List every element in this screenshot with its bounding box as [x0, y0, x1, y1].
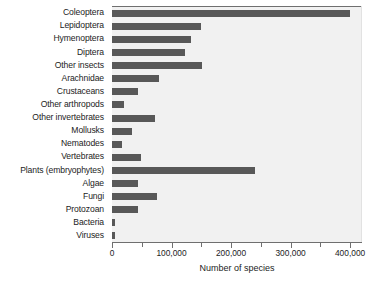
- bar-row: [112, 59, 362, 72]
- bar: [112, 180, 138, 187]
- bar-row: [112, 151, 362, 164]
- bar: [112, 219, 115, 226]
- bar: [112, 101, 124, 108]
- bar-row: [112, 7, 362, 20]
- category-label: Plants (embryophytes): [0, 163, 107, 176]
- category-label: Diptera: [0, 45, 107, 58]
- x-tick-minor: [142, 243, 143, 247]
- bar-row: [112, 216, 362, 229]
- category-axis-labels: ColeopteraLepidopteraHymenopteraDipteraO…: [0, 6, 107, 242]
- bar-row: [112, 98, 362, 111]
- bar: [112, 49, 185, 56]
- category-label: Coleoptera: [0, 6, 107, 19]
- bar-row: [112, 164, 362, 177]
- bar: [112, 206, 138, 213]
- x-tick-minor: [201, 243, 202, 247]
- bar: [112, 88, 138, 95]
- bar-row: [112, 203, 362, 216]
- x-tick-label: 200,000: [216, 249, 246, 257]
- bar: [112, 154, 141, 161]
- category-label: Protozoan: [0, 203, 107, 216]
- bar-row: [112, 125, 362, 138]
- bar: [112, 232, 115, 239]
- bar: [112, 23, 201, 30]
- bar: [112, 75, 159, 82]
- category-label: Lepidoptera: [0, 19, 107, 32]
- category-label: Other invertebrates: [0, 111, 107, 124]
- category-label: Fungi: [0, 190, 107, 203]
- bar: [112, 36, 191, 43]
- bar-row: [112, 46, 362, 59]
- category-label: Viruses: [0, 229, 107, 242]
- x-tick-minor: [261, 243, 262, 247]
- category-label: Other insects: [0, 58, 107, 71]
- species-bar-chart-figure: ColeopteraLepidopteraHymenopteraDipteraO…: [0, 0, 372, 281]
- category-label: Other arthropods: [0, 98, 107, 111]
- bar-row: [112, 138, 362, 151]
- bar: [112, 10, 350, 17]
- bar-series: [112, 7, 362, 242]
- bar: [112, 193, 157, 200]
- category-label: Vertebrates: [0, 150, 107, 163]
- bar: [112, 128, 132, 135]
- bar-row: [112, 190, 362, 203]
- category-label: Nematodes: [0, 137, 107, 150]
- category-label: Mollusks: [0, 124, 107, 137]
- category-label: Hymenoptera: [0, 32, 107, 45]
- bar-row: [112, 112, 362, 125]
- x-axis-tick-labels: 0100,000200,000300,000400,000: [0, 249, 372, 261]
- category-label: Arachnidae: [0, 72, 107, 85]
- x-tick-label: 400,000: [335, 249, 365, 257]
- category-label: Crustaceans: [0, 85, 107, 98]
- bar: [112, 115, 155, 122]
- bar-row: [112, 229, 362, 242]
- category-label: Bacteria: [0, 216, 107, 229]
- bar: [112, 62, 202, 69]
- bar: [112, 141, 122, 148]
- bar: [112, 167, 255, 174]
- category-label: Algae: [0, 176, 107, 189]
- x-tick-minor: [320, 243, 321, 247]
- bar-row: [112, 85, 362, 98]
- x-tick-label: 0: [110, 249, 115, 257]
- bar-row: [112, 33, 362, 46]
- bar-row: [112, 72, 362, 85]
- bar-row: [112, 177, 362, 190]
- x-axis-title: Number of species: [112, 264, 362, 273]
- bar-row: [112, 20, 362, 33]
- plot-frame-right-edge: [361, 6, 362, 243]
- x-tick-label: 100,000: [156, 249, 186, 257]
- plot-area: [112, 6, 362, 242]
- x-tick-label: 300,000: [275, 249, 305, 257]
